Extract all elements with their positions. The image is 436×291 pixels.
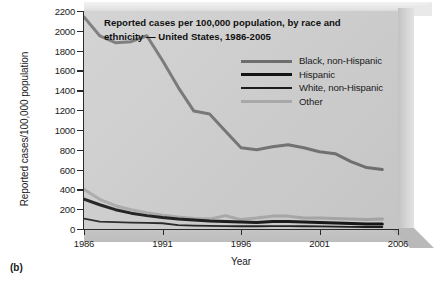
x-tick-label-1996: 1996: [231, 238, 251, 249]
x-tick-mark-1996: [241, 229, 242, 235]
y-tick-label: 400: [60, 184, 75, 195]
legend-swatch-line-icon: [241, 60, 292, 63]
y-tick-label: 1400: [55, 85, 75, 96]
x-tick-label-2006: 2006: [388, 238, 408, 249]
legend-swatch-line-icon: [241, 100, 292, 103]
y-tick-label: 0: [70, 224, 75, 235]
x-tick-mark-2006: [398, 229, 399, 235]
y-tick-mark: [77, 11, 83, 12]
y-tick-label: 2200: [55, 6, 75, 17]
plot-area-shading: [84, 11, 398, 229]
chart-title: Reported cases per 100,000 population, b…: [104, 16, 386, 43]
legend-label: Hispanic: [299, 68, 335, 82]
y-tick-label: 1600: [55, 65, 75, 76]
chart-title-line-1: Reported cases per 100,000 population, b…: [104, 16, 386, 30]
panel-label: (b): [10, 262, 23, 273]
y-tick-label: 600: [60, 164, 75, 175]
y-tick-mark: [77, 130, 83, 131]
y-tick-label: 1000: [55, 124, 75, 135]
x-tick-label-1991: 1991: [152, 238, 172, 249]
y-tick-mark: [77, 229, 83, 230]
y-tick-mark: [77, 110, 83, 111]
figure-panel-b: 0200400600800100012001400160018002000220…: [0, 0, 436, 291]
y-tick-mark: [77, 31, 83, 32]
chart-title-line-2: ethnicity — United States, 1986-2005: [104, 30, 386, 44]
y-tick-mark: [77, 51, 83, 52]
x-tick-mark-2001: [320, 229, 321, 235]
y-tick-mark: [77, 150, 83, 151]
x-tick-mark-1991: [163, 229, 164, 235]
x-tick-label-1986: 1986: [74, 238, 94, 249]
y-tick-label: 1200: [55, 105, 75, 116]
y-tick-mark: [77, 90, 83, 91]
y-axis-line: [83, 11, 84, 230]
legend-label: White, non-Hispanic: [299, 81, 383, 95]
legend-label: Other: [299, 95, 323, 109]
legend-swatch-line-icon: [241, 87, 292, 89]
y-tick-label: 1800: [55, 45, 75, 56]
y-tick-mark: [77, 189, 83, 190]
plot-area: [84, 11, 398, 229]
legend-label: Black, non-Hispanic: [299, 54, 382, 68]
y-tick-label: 2000: [55, 25, 75, 36]
x-axis-title: Year: [231, 256, 251, 267]
y-tick-mark: [77, 170, 83, 171]
y-tick-label: 800: [60, 144, 75, 155]
y-tick-mark: [77, 70, 83, 71]
y-tick-mark: [77, 209, 83, 210]
legend-swatch-line-icon: [241, 73, 292, 76]
x-tick-label-2001: 2001: [309, 238, 329, 249]
x-tick-mark-1986: [84, 229, 85, 235]
plot-3d-right-face: [398, 8, 414, 239]
y-axis-title: Reported cases/100,000 population: [19, 52, 30, 207]
y-tick-label: 200: [60, 204, 75, 215]
